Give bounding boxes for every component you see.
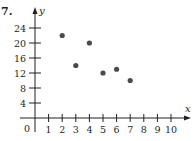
y-tick-label: 8 bbox=[20, 83, 26, 94]
scatter-chart: 7. xy0 123456789104812162024 bbox=[0, 0, 195, 141]
y-tick-label: 20 bbox=[14, 38, 26, 49]
x-tick-label: 5 bbox=[100, 124, 106, 135]
data-point bbox=[128, 78, 133, 83]
x-axis-arrow-icon bbox=[184, 116, 191, 121]
x-tick-label: 4 bbox=[86, 124, 92, 135]
problem-number: 7. bbox=[1, 5, 12, 18]
x-tick-label: 10 bbox=[165, 124, 177, 135]
x-tick-label: 2 bbox=[59, 124, 65, 135]
y-tick-label: 4 bbox=[20, 98, 26, 109]
x-tick-label: 8 bbox=[141, 124, 147, 135]
origin-label: 0 bbox=[24, 123, 30, 134]
x-tick-label: 7 bbox=[127, 124, 133, 135]
x-tick-label: 9 bbox=[154, 124, 160, 135]
data-point bbox=[60, 33, 65, 38]
x-tick-label: 3 bbox=[73, 124, 79, 135]
data-point bbox=[87, 40, 92, 45]
y-tick-label: 24 bbox=[14, 23, 26, 34]
data-point bbox=[114, 67, 119, 72]
data-points bbox=[60, 33, 133, 83]
x-axis-label: x bbox=[185, 103, 191, 114]
x-tick-label: 6 bbox=[114, 124, 120, 135]
data-point bbox=[73, 63, 78, 68]
y-tick-label: 12 bbox=[14, 68, 26, 79]
y-tick-label: 16 bbox=[14, 53, 26, 64]
x-tick-label: 1 bbox=[46, 124, 52, 135]
axes: xy0 bbox=[20, 5, 191, 134]
data-point bbox=[100, 70, 105, 75]
y-axis-label: y bbox=[38, 5, 45, 16]
y-axis-arrow-icon bbox=[33, 7, 38, 14]
